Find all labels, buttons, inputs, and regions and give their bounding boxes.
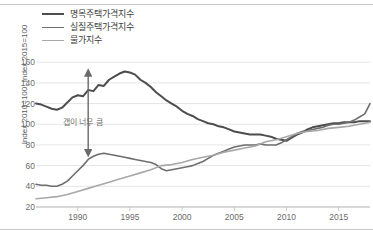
gap-annotation-label: 갭이 너무 큼 — [63, 116, 102, 127]
chart-figure: 명목주택가격지수 실질주택가격지수 물가지수 Index 2010=100, I… — [0, 0, 373, 240]
plot-area — [0, 0, 373, 240]
series-line — [36, 122, 370, 199]
